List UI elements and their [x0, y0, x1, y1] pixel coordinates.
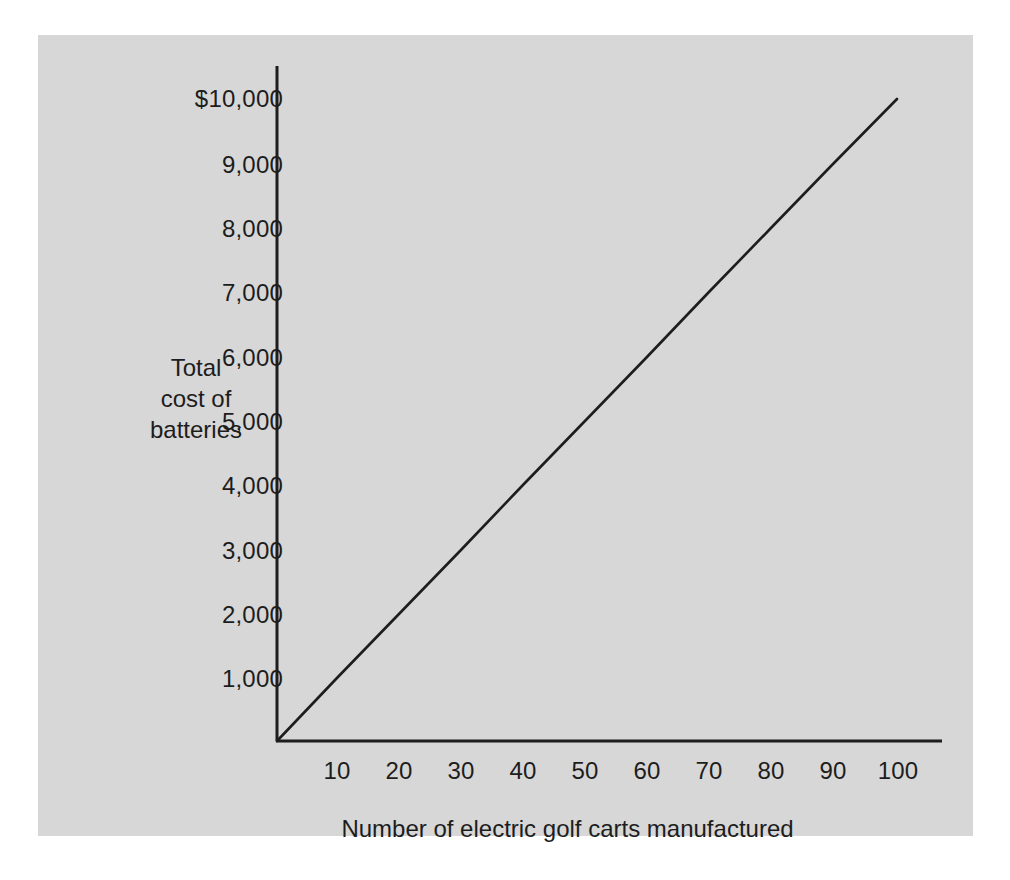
y-tick-label-4000: 4,000	[222, 472, 283, 500]
y-tick-label-8000: 8,000	[222, 215, 283, 243]
y-tick-label-5000: 5,000	[222, 408, 283, 436]
y-tick-label-6000: 6,000	[222, 344, 283, 372]
x-tick-label-40: 40	[509, 757, 536, 785]
y-tick-label-2000: 2,000	[222, 601, 283, 629]
x-tick-label-90: 90	[819, 757, 846, 785]
x-tick-label-100: 100	[878, 757, 919, 785]
y-tick-label-10000: $10,000	[195, 85, 283, 113]
y-tick-label-3000: 3,000	[222, 537, 283, 565]
chart-figure: Total cost of batteries $10,000 9,000 8,…	[38, 35, 973, 836]
x-tick-label-30: 30	[447, 757, 474, 785]
y-tick-label-1000: 1,000	[222, 665, 283, 693]
y-tick-label-7000: 7,000	[222, 279, 283, 307]
x-tick-label-50: 50	[571, 757, 598, 785]
x-tick-label-60: 60	[633, 757, 660, 785]
x-tick-label-70: 70	[695, 757, 722, 785]
x-tick-label-80: 80	[757, 757, 784, 785]
y-tick-label-9000: 9,000	[222, 151, 283, 179]
data-series-line	[277, 99, 897, 741]
x-axis-title-text: Number of electric golf carts manufactur…	[341, 815, 793, 843]
x-tick-label-20: 20	[385, 757, 412, 785]
x-axis-title: Number of electric golf carts manufactur…	[38, 815, 973, 843]
x-tick-label-10: 10	[323, 757, 350, 785]
